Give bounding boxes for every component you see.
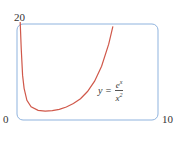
numerator: ex (115, 78, 124, 91)
function-annotation: y = ex x2 (98, 78, 123, 103)
denominator: x2 (116, 91, 123, 103)
origin-label: 0 (3, 113, 9, 125)
fraction: ex x2 (115, 78, 124, 103)
x-max-label: 10 (162, 113, 173, 125)
formula-lhs: y = (98, 85, 112, 96)
chart-canvas (0, 0, 181, 141)
y-max-label: 20 (14, 11, 25, 23)
plot-frame (17, 24, 158, 120)
